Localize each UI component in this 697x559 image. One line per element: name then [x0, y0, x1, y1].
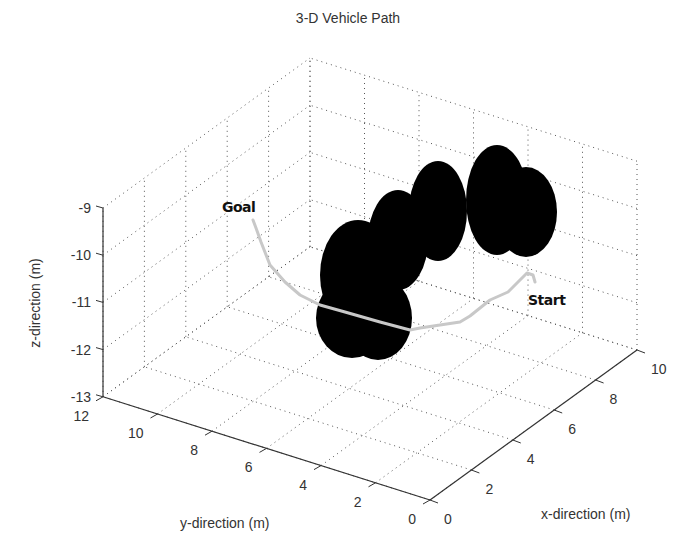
left-wall-grid-line — [103, 152, 310, 302]
y-tick-mark — [369, 483, 376, 487]
z-tick-mark — [96, 206, 103, 208]
z-tick-label: -13 — [71, 389, 91, 405]
y-tick-label: 12 — [73, 408, 89, 424]
x-tick-label: 2 — [485, 481, 493, 497]
z-axis-label: z-direction (m) — [27, 258, 43, 347]
x-tick-mark — [513, 440, 521, 443]
z-tick-mark — [96, 300, 103, 302]
y-tick-mark — [151, 414, 158, 418]
x-tick-label: 0 — [444, 511, 452, 527]
left-wall-grid-line — [103, 247, 310, 397]
x-tick-label: 8 — [610, 391, 618, 407]
annotation-goal: Goal — [222, 199, 255, 215]
y-tick-label: 8 — [190, 442, 198, 458]
right-wall-grid-line — [310, 58, 637, 161]
z-tick-label: -9 — [79, 200, 92, 216]
obstacle-sphere — [344, 276, 412, 360]
obstacle-spheres — [316, 145, 557, 360]
y-tick-label: 2 — [354, 494, 362, 510]
x-tick-label: 10 — [651, 361, 667, 377]
y-axis-label: y-direction (m) — [180, 515, 269, 531]
x-tick-mark — [471, 470, 479, 473]
left-wall-grid-line — [103, 105, 310, 255]
y-tick-mark — [314, 466, 321, 470]
x-tick-mark — [596, 380, 604, 383]
x-tick-mark — [430, 500, 438, 503]
y-tick-mark — [96, 397, 103, 401]
y-tick-mark — [260, 448, 267, 452]
annotation-start: Start — [528, 292, 566, 308]
obstacle-sphere — [495, 167, 557, 257]
chart-title: 3-D Vehicle Path — [296, 10, 400, 26]
y-tick-mark — [205, 431, 212, 435]
z-tick-label: -12 — [71, 342, 91, 358]
figure: 3-D Vehicle Path 0246810024681012-13-12-… — [0, 0, 697, 559]
z-tick-mark — [96, 395, 103, 397]
y-tick-mark — [423, 500, 430, 504]
y-tick-label: 0 — [408, 511, 416, 527]
x-axis-line — [430, 350, 637, 500]
z-tick-label: -11 — [72, 294, 91, 310]
x-axis-label: x-direction (m) — [541, 506, 630, 522]
z-tick-label: -10 — [71, 247, 91, 263]
plot-3d: 3-D Vehicle Path 0246810024681012-13-12-… — [0, 0, 697, 559]
x-tick-label: 4 — [527, 451, 535, 467]
y-tick-label: 10 — [128, 425, 144, 441]
z-tick-mark — [96, 253, 103, 255]
left-wall-grid-line — [103, 58, 310, 208]
y-tick-label: 6 — [245, 459, 253, 475]
z-tick-mark — [96, 348, 103, 350]
floor-grid-line — [376, 333, 583, 483]
y-tick-label: 4 — [299, 477, 307, 493]
x-tick-mark — [554, 410, 562, 413]
floor-grid-line — [103, 247, 310, 397]
x-tick-label: 6 — [568, 421, 576, 437]
x-tick-mark — [637, 350, 645, 353]
